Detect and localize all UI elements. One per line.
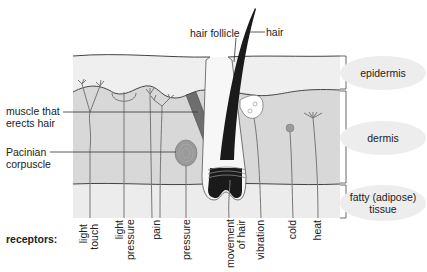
pacinian-label: Pacinian corpuscle (6, 146, 51, 170)
epidermis-label: epidermis (340, 56, 426, 90)
fatty-tissue-label: fatty (adipose)tissue (340, 185, 426, 221)
hair-label: hair (266, 26, 284, 38)
hair-follicle-label: hair follicle (190, 27, 240, 39)
receptors-heading: receptors: (6, 233, 57, 245)
receptor-pressure: pressure (181, 220, 192, 260)
cold-receptor-bulb (286, 124, 294, 132)
receptor-movement-of-hair: movementof hair (225, 220, 247, 268)
receptor-cold: cold (287, 220, 298, 246)
receptor-heat: heat (312, 220, 323, 246)
muscle-label: muscle that erects hair (6, 105, 60, 129)
receptor-vibration: vibration (255, 220, 266, 262)
receptor-light-touch: lighttouch (78, 224, 100, 260)
dermis-label: dermis (340, 121, 426, 155)
receptor-pain: pain (151, 220, 162, 247)
receptor-light-pressure: lightpressure (114, 220, 136, 260)
